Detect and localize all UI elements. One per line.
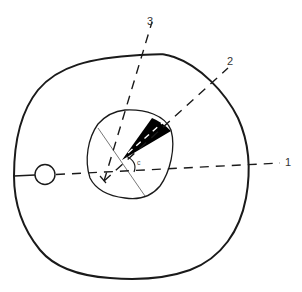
label-angle: c (137, 159, 141, 166)
black-wedge (122, 118, 171, 160)
label-line-1: 1 (285, 156, 291, 168)
label-line-3: 3 (147, 15, 153, 27)
dashed-line-1 (14, 175, 35, 176)
small-circle (35, 165, 55, 185)
diagram-canvas: 3 2 1 c (0, 0, 302, 292)
dashed-line-2 (104, 68, 228, 181)
angle-arc (126, 156, 135, 172)
dashed-line-1-main (56, 163, 280, 175)
label-line-2: 2 (227, 55, 233, 67)
